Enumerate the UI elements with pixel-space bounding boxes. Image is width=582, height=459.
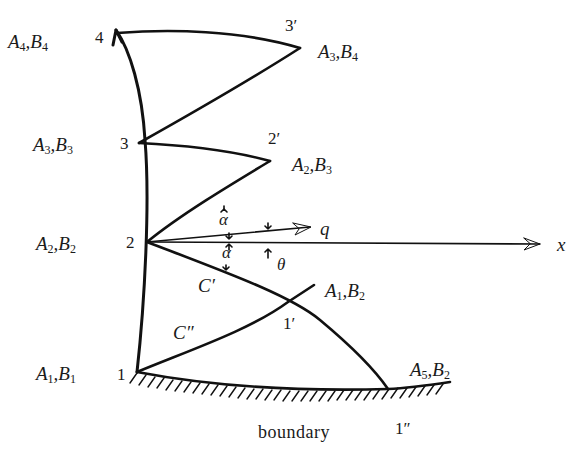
- x-axis: [147, 242, 540, 244]
- ray-label-q: q: [320, 219, 330, 238]
- boundary-hatching: [130, 373, 443, 401]
- label-sub: 2: [444, 368, 450, 382]
- label-b: B: [55, 134, 67, 155]
- label-sub: 4: [42, 40, 48, 54]
- wall-curve: [116, 30, 147, 372]
- label-a: A: [325, 280, 337, 301]
- label-b: B: [30, 31, 42, 52]
- label-a2-b2: A2,B2: [36, 234, 76, 255]
- label-a1-b1: A1,B1: [36, 364, 76, 385]
- alpha-lower-tick: [223, 265, 229, 270]
- axis-label-x: x: [557, 235, 565, 254]
- point-3-prime: 3′: [285, 17, 297, 34]
- point-2-prime: 2′: [268, 130, 280, 147]
- boundary-label: boundary: [258, 423, 330, 441]
- curve-label-c-prime: C′: [198, 276, 215, 295]
- label-sub: 2: [359, 289, 365, 303]
- label-a: A: [33, 134, 45, 155]
- label-a: A: [36, 233, 48, 254]
- characteristic-3-2p: [139, 143, 270, 161]
- angle-label-alpha-lower: α: [222, 244, 231, 261]
- label-a: A: [318, 41, 330, 62]
- label-b: B: [340, 41, 352, 62]
- label-sub: 4: [352, 50, 358, 64]
- theta-ticks: [265, 223, 271, 258]
- curve-label-c-double-prime: C″: [173, 323, 194, 342]
- angle-label-alpha-upper: α: [219, 211, 228, 228]
- point-1-prime: 1′: [283, 315, 295, 332]
- characteristics-diagram: [0, 0, 582, 459]
- point-1: 1: [117, 366, 126, 383]
- label-a: A: [292, 154, 304, 175]
- label-b: B: [314, 154, 326, 175]
- label-a: A: [36, 363, 48, 384]
- label-a: A: [410, 359, 422, 380]
- label-a5-b2: A5,B2: [410, 360, 450, 381]
- characteristic-2p-2: [147, 161, 270, 242]
- point-4: 4: [95, 29, 104, 46]
- label-a1-b2: A1,B2: [325, 281, 365, 302]
- label-a2-b3: A2,B3: [292, 155, 332, 176]
- label-sub: 2: [70, 242, 76, 256]
- label-b: B: [58, 363, 70, 384]
- label-a3-b3: A3,B3: [33, 135, 73, 156]
- label-sub: 3: [326, 163, 332, 177]
- label-sub: 3: [67, 143, 73, 157]
- label-sub: 1: [70, 372, 76, 386]
- characteristic-4-3p: [117, 31, 300, 48]
- point-1-double-prime: 1″: [395, 420, 411, 437]
- label-a3-b4: A3,B4: [318, 42, 358, 63]
- label-a: A: [8, 31, 20, 52]
- point-3: 3: [120, 135, 129, 152]
- boundary-curve: [137, 372, 450, 390]
- label-a4-b4: A4,B4: [8, 32, 48, 53]
- label-b: B: [347, 280, 359, 301]
- label-b: B: [432, 359, 444, 380]
- point-2: 2: [126, 234, 135, 251]
- angle-label-theta: θ: [277, 256, 285, 273]
- label-b: B: [58, 233, 70, 254]
